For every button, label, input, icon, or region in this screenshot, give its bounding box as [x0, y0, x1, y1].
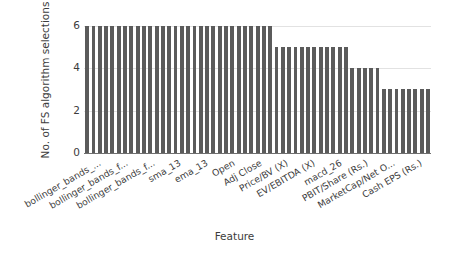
bar-chart-figure: No. of FS algorithm selections 0246 boll… [0, 0, 469, 257]
x-axis-title: Feature [0, 230, 469, 242]
x-axis-tick-labels: bollinger_bands_...bollinger_bands_f...b… [0, 0, 469, 257]
